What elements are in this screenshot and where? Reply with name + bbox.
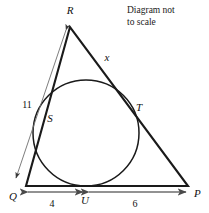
tangent-label-s: S [47,112,53,124]
tangent-label-t: T [136,101,143,113]
length-label-qr: 11 [22,99,32,110]
vertex-label-p: P [193,187,201,199]
geometry-figure: R Q P S T U 11 4 6 x Diagram not to scal… [0,0,209,213]
length-label-rt: x [104,51,110,63]
vertex-label-q: Q [9,190,17,202]
triangle-incircle-svg: R Q P S T U 11 4 6 x [0,0,209,213]
inscribed-circle [33,80,139,186]
diagram-caption: Diagram not to scale [127,4,205,28]
vertex-label-r: R [66,4,74,16]
caption-line-2: to scale [127,16,205,28]
length-label-qu: 4 [50,198,55,209]
caption-line-1: Diagram not [127,4,205,16]
length-label-up: 6 [133,198,138,209]
tangent-label-u: U [81,194,90,206]
